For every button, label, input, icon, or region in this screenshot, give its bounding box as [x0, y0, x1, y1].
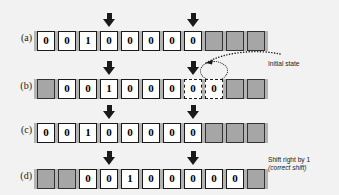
tape-cell[interactable]: 0	[184, 169, 202, 189]
tape-cell[interactable]: 0	[163, 123, 181, 143]
row-caption: Initial state	[268, 60, 339, 68]
down-arrow-icon	[103, 13, 116, 27]
tape-cell[interactable]: 1	[79, 31, 97, 51]
tape-cell-empty[interactable]	[205, 31, 223, 51]
tape-row: (b)00100000Shift right by 1(correct shif…	[0, 76, 339, 102]
row-label: (a)	[6, 32, 32, 43]
figure-canvas: (a)00100000Initial state(b)00100000Shift…	[0, 0, 339, 195]
tape-cell[interactable]: 0	[79, 79, 97, 99]
tape-cell[interactable]: 1	[79, 123, 97, 143]
tape-cell[interactable]: 0	[142, 123, 160, 143]
tape-cell[interactable]: 0	[37, 31, 55, 51]
tape-row: (c)00100000Under-shift by 1(misalignment…	[0, 120, 339, 146]
tape-cell[interactable]: 0	[142, 169, 160, 189]
tape-cell-empty[interactable]	[58, 169, 76, 189]
tape: 00100000	[37, 30, 268, 52]
tape-cell[interactable]: 0	[100, 169, 118, 189]
tape-cell-empty[interactable]	[37, 79, 55, 99]
down-arrow-icon	[187, 13, 200, 27]
down-arrow-icon	[103, 105, 116, 119]
tape-cell-empty[interactable]	[247, 79, 265, 99]
tape-cell[interactable]: 0	[100, 31, 118, 51]
tape-cell[interactable]: 0	[37, 123, 55, 143]
tape-cell[interactable]: 0	[79, 169, 97, 189]
tape-cell-empty[interactable]	[37, 169, 55, 189]
tape-cell[interactable]: 0	[121, 31, 139, 51]
tape-row: (a)00100000Initial state	[0, 28, 339, 54]
tape-cell[interactable]: 0	[142, 31, 160, 51]
down-arrow-icon	[103, 151, 116, 165]
tape: 00100000	[37, 78, 268, 100]
tape-cell[interactable]: 0	[58, 123, 76, 143]
tape-cell[interactable]: 0	[100, 123, 118, 143]
tape-cell-empty[interactable]	[205, 123, 223, 143]
tape-cell[interactable]: 0	[163, 79, 181, 99]
row-label: (d)	[6, 170, 32, 181]
tape-cell[interactable]: 0	[226, 169, 244, 189]
tape-cell[interactable]: 1	[121, 169, 139, 189]
row-caption-main: Initial state	[268, 60, 339, 68]
tape-cell[interactable]: 0	[184, 123, 202, 143]
tape: 00100000	[37, 122, 268, 144]
tape-cell-empty[interactable]	[226, 31, 244, 51]
tape-cell[interactable]: 0	[205, 79, 223, 99]
down-arrow-icon	[187, 61, 200, 75]
tape-cell[interactable]: 0	[142, 79, 160, 99]
tape: 00100000	[37, 168, 268, 190]
tape-cell[interactable]: 0	[184, 31, 202, 51]
row-label: (c)	[6, 124, 32, 135]
down-arrow-icon	[103, 61, 116, 75]
tape-cell[interactable]: 0	[205, 169, 223, 189]
row-caption-main: Shift right by 1	[268, 156, 339, 164]
tape-cell[interactable]: 0	[163, 31, 181, 51]
tape-cell-empty[interactable]	[247, 123, 265, 143]
tape-cell[interactable]: 0	[58, 31, 76, 51]
tape-cell-empty[interactable]	[247, 31, 265, 51]
tape-cell[interactable]: 0	[121, 123, 139, 143]
tape-cell[interactable]: 0	[121, 79, 139, 99]
down-arrow-icon	[187, 105, 200, 119]
tape-cell-empty[interactable]	[247, 169, 265, 189]
tape-cell-empty[interactable]	[226, 123, 244, 143]
down-arrow-icon	[187, 151, 200, 165]
tape-row: (d)00100000Over-shift by 1(misalignment)	[0, 166, 339, 192]
tape-cell[interactable]: 0	[163, 169, 181, 189]
tape-cell[interactable]: 1	[100, 79, 118, 99]
row-label: (b)	[6, 80, 32, 91]
tape-cell-empty[interactable]	[226, 79, 244, 99]
tape-cell[interactable]: 0	[184, 79, 202, 99]
tape-cell[interactable]: 0	[58, 79, 76, 99]
